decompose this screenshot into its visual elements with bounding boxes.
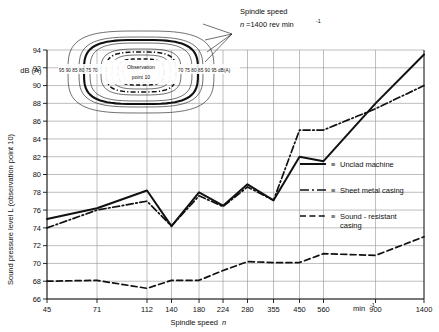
legend-label-2: Sound - resistant [340, 212, 398, 221]
y-tick-label: 84 [33, 135, 41, 144]
x-tick-label: 71 [93, 305, 101, 314]
inset-scale-left: 95 90 85 80 75 70 [59, 68, 98, 73]
x-tick-label: 355 [267, 305, 280, 314]
x-tick-label: 450 [293, 305, 306, 314]
y-tick-label: 86 [33, 117, 41, 126]
legend-separator-2: ≡ [331, 212, 336, 221]
y-tick-label: 66 [33, 295, 41, 304]
x-tick-label: 560 [317, 305, 330, 314]
y-axis-unit: dB (A) [20, 66, 42, 75]
inset-scale-right: 70 75 80 85 90 95 dB(A) [178, 68, 231, 73]
y-tick-label: 68 [33, 277, 41, 286]
y-tick-label: 88 [33, 99, 41, 108]
sound-pressure-level-chart: 666870727476788082848688909294 dB (A) So… [0, 0, 439, 332]
y-tick-label: 70 [33, 259, 41, 268]
legend-label-0: Unclad machine [340, 160, 394, 169]
y-tick-label: 94 [33, 46, 41, 55]
x-axis-title: Spindle speed n [170, 318, 226, 327]
x-tick-label: 280 [241, 305, 254, 314]
x-tick-label: 1400 [416, 305, 433, 314]
x-tick-label: 140 [165, 305, 178, 314]
inset-center-label-line2: point 10 [132, 74, 151, 80]
x-axis-title-symbol: n [222, 318, 226, 327]
y-tick-label: 72 [33, 241, 41, 250]
x-tick-label: 45 [43, 305, 51, 314]
spindle-speed-symbol: n [240, 20, 244, 29]
spindle-speed-exponent: -1 [316, 18, 321, 24]
y-tick-label: 74 [33, 224, 41, 233]
x-axis-unit-exponent: -1 [370, 302, 375, 308]
y-tick-label: 80 [33, 170, 41, 179]
legend-separator-0: ≡ [331, 160, 336, 169]
x-tick-label: 180 [193, 305, 206, 314]
inset-center-label-line1: Observation [127, 64, 155, 70]
legend-label-2-line2: casing [340, 221, 362, 230]
legend-label-1: Sheet metal casing [340, 186, 404, 195]
x-axis-title-text: Spindle speed [170, 318, 218, 327]
y-tick-label: 90 [33, 81, 41, 90]
y-tick-label: 78 [33, 188, 41, 197]
x-tick-label: 224 [217, 305, 230, 314]
legend-separator-1: ≡ [331, 186, 336, 195]
x-axis-unit-text: min [353, 304, 365, 313]
y-tick-label: 82 [33, 153, 41, 162]
spindle-speed-value: =1400 rev min [246, 20, 294, 29]
y-axis-title: Sound pressure level L (observation poin… [6, 133, 15, 285]
spindle-speed-line1: Spindle speed [240, 7, 288, 16]
y-tick-label: 76 [33, 206, 41, 215]
x-tick-label: 112 [141, 305, 153, 314]
